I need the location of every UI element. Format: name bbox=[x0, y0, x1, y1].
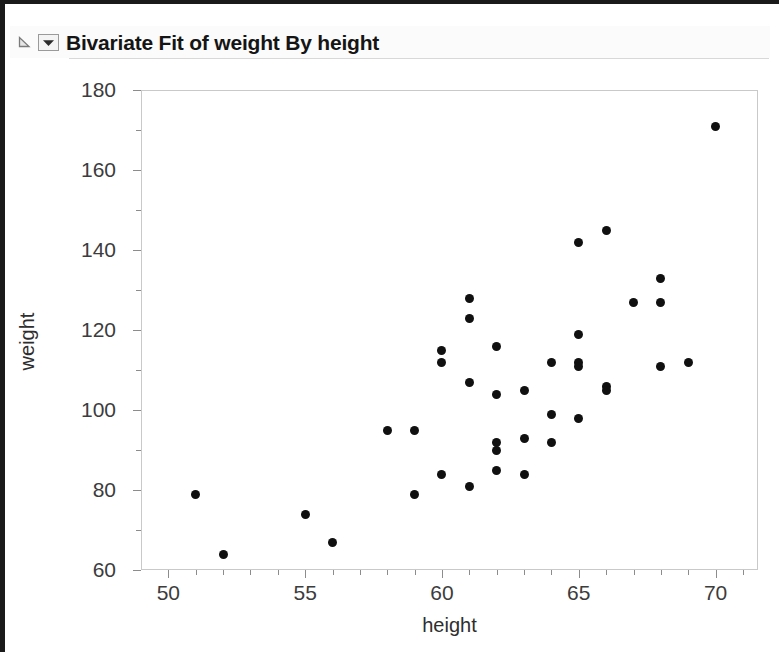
scatter-point[interactable] bbox=[410, 426, 419, 435]
x-axis-minor-tick bbox=[688, 570, 689, 575]
y-axis-tick-label: 140 bbox=[5, 238, 125, 262]
x-axis-minor-tick bbox=[497, 570, 498, 575]
scatter-point[interactable] bbox=[547, 438, 556, 447]
red-triangle-menu-icon[interactable] bbox=[38, 34, 59, 51]
scatter-point[interactable] bbox=[629, 298, 638, 307]
x-axis-tick bbox=[168, 570, 169, 578]
y-axis-minor-tick bbox=[136, 370, 141, 371]
scatter-point[interactable] bbox=[410, 490, 419, 499]
y-axis-tick bbox=[133, 410, 141, 411]
scatter-point[interactable] bbox=[711, 122, 720, 131]
scatter-point[interactable] bbox=[656, 274, 665, 283]
report-window: Bivariate Fit of weight By height weight… bbox=[0, 0, 779, 652]
scatter-point[interactable] bbox=[656, 298, 665, 307]
bivariate-plot: weight height 60801001201401601805055606… bbox=[5, 62, 779, 652]
x-axis-tick-label: 65 bbox=[539, 581, 619, 605]
scatter-point[interactable] bbox=[547, 358, 556, 367]
x-axis-tick-label: 70 bbox=[676, 581, 756, 605]
x-axis-minor-tick bbox=[250, 570, 251, 575]
scatter-point[interactable] bbox=[684, 358, 693, 367]
y-axis-minor-tick bbox=[136, 290, 141, 291]
x-axis-minor-tick bbox=[661, 570, 662, 575]
report-title-bar: Bivariate Fit of weight By height bbox=[10, 26, 770, 58]
x-axis-minor-tick bbox=[634, 570, 635, 575]
scatter-point[interactable] bbox=[492, 466, 501, 475]
scatter-point[interactable] bbox=[656, 362, 665, 371]
scatter-point[interactable] bbox=[547, 410, 556, 419]
x-axis-minor-tick bbox=[278, 570, 279, 575]
y-axis-tick-label: 60 bbox=[5, 558, 125, 582]
scatter-point[interactable] bbox=[574, 238, 583, 247]
scatter-point[interactable] bbox=[465, 482, 474, 491]
x-axis-minor-tick bbox=[524, 570, 525, 575]
y-axis-minor-tick bbox=[136, 130, 141, 131]
scatter-point[interactable] bbox=[520, 470, 529, 479]
y-axis-tick bbox=[133, 570, 141, 571]
scatter-point[interactable] bbox=[602, 226, 611, 235]
x-axis-minor-tick bbox=[196, 570, 197, 575]
scatter-point[interactable] bbox=[191, 490, 200, 499]
y-axis-minor-tick bbox=[136, 210, 141, 211]
y-axis-tick bbox=[133, 490, 141, 491]
scatter-point[interactable] bbox=[574, 330, 583, 339]
x-axis-tick-label: 50 bbox=[128, 581, 208, 605]
scatter-point[interactable] bbox=[520, 434, 529, 443]
y-axis-tick bbox=[133, 250, 141, 251]
x-axis-minor-tick bbox=[333, 570, 334, 575]
scatter-point[interactable] bbox=[301, 510, 310, 519]
scatter-point[interactable] bbox=[437, 346, 446, 355]
x-axis-minor-tick bbox=[551, 570, 552, 575]
scatter-point[interactable] bbox=[328, 538, 337, 547]
x-axis-tick bbox=[305, 570, 306, 578]
x-axis-minor-tick bbox=[360, 570, 361, 575]
x-axis-tick-label: 60 bbox=[402, 581, 482, 605]
scatter-point[interactable] bbox=[492, 390, 501, 399]
scatter-points-layer[interactable] bbox=[141, 90, 758, 570]
scatter-point[interactable] bbox=[574, 414, 583, 423]
scatter-point[interactable] bbox=[465, 294, 474, 303]
x-axis-minor-tick bbox=[606, 570, 607, 575]
scatter-point[interactable] bbox=[574, 362, 583, 371]
x-axis-minor-tick bbox=[469, 570, 470, 575]
y-axis-minor-tick bbox=[136, 450, 141, 451]
scatter-point[interactable] bbox=[437, 358, 446, 367]
y-axis-tick bbox=[133, 90, 141, 91]
y-axis-tick-label: 120 bbox=[5, 318, 125, 342]
scatter-point[interactable] bbox=[437, 470, 446, 479]
scatter-point[interactable] bbox=[219, 550, 228, 559]
x-axis-minor-tick bbox=[387, 570, 388, 575]
scatter-point[interactable] bbox=[383, 426, 392, 435]
x-axis-tick-label: 55 bbox=[265, 581, 345, 605]
scatter-point[interactable] bbox=[520, 386, 529, 395]
y-axis-tick bbox=[133, 170, 141, 171]
y-axis-tick-label: 80 bbox=[5, 478, 125, 502]
x-axis-tick bbox=[579, 570, 580, 578]
y-axis-tick-label: 100 bbox=[5, 398, 125, 422]
x-axis-title: height bbox=[141, 614, 758, 637]
scatter-point[interactable] bbox=[465, 314, 474, 323]
x-axis-minor-tick bbox=[223, 570, 224, 575]
y-axis-tick-label: 160 bbox=[5, 158, 125, 182]
y-axis-tick-label: 180 bbox=[5, 78, 125, 102]
y-axis-tick bbox=[133, 330, 141, 331]
x-axis-tick bbox=[442, 570, 443, 578]
y-axis-minor-tick bbox=[136, 530, 141, 531]
scatter-point[interactable] bbox=[465, 378, 474, 387]
page-title: Bivariate Fit of weight By height bbox=[66, 32, 379, 53]
scatter-point[interactable] bbox=[602, 386, 611, 395]
disclosure-triangle-icon[interactable] bbox=[17, 34, 33, 50]
x-axis-minor-tick bbox=[415, 570, 416, 575]
title-divider bbox=[69, 58, 769, 59]
scatter-point[interactable] bbox=[492, 342, 501, 351]
x-axis-minor-tick bbox=[743, 570, 744, 575]
x-axis-tick bbox=[716, 570, 717, 578]
scatter-point[interactable] bbox=[492, 446, 501, 455]
